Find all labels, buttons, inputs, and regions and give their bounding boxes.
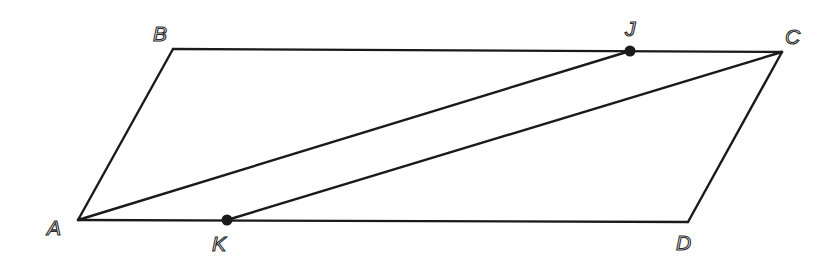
- segment-aj: [78, 51, 630, 220]
- vertex-label-d: D: [676, 231, 691, 254]
- parallelogram-diagram: A B C D J K: [0, 0, 839, 265]
- diagram-edges: [78, 49, 782, 222]
- segment-kc: [227, 52, 782, 220]
- point-k-dot: [222, 215, 233, 226]
- vertex-label-b: B: [153, 22, 167, 45]
- vertex-label-a: A: [45, 216, 61, 239]
- vertex-label-c: C: [785, 25, 801, 48]
- segment-cd: [688, 52, 782, 222]
- point-label-k: K: [212, 232, 227, 255]
- point-j-dot: [625, 46, 636, 57]
- point-label-j: J: [624, 17, 636, 40]
- segment-bc: [173, 49, 782, 52]
- segment-da: [78, 220, 688, 222]
- diagram-points: [222, 46, 636, 226]
